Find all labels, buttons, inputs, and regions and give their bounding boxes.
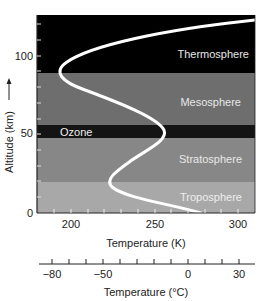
y-axis-label: Altitude (km) bbox=[3, 111, 15, 173]
x-tick-300: 300 bbox=[229, 218, 247, 230]
c-tick-0: 0 bbox=[185, 268, 191, 280]
atmosphere-temperature-chart: Thermosphere Mesosphere Ozone Stratosphe… bbox=[0, 0, 265, 301]
x-axis-label-celsius: Temperature (°C) bbox=[104, 286, 188, 298]
c-tick-minus50: −50 bbox=[94, 268, 113, 280]
thermosphere-label: Thermosphere bbox=[177, 48, 249, 60]
c-tick-minus80: −80 bbox=[43, 268, 62, 280]
x-axis-label-kelvin: Temperature (K) bbox=[106, 237, 185, 249]
ozone-label: Ozone bbox=[60, 126, 92, 138]
plot-area bbox=[37, 15, 255, 213]
y-tick-50: 50 bbox=[21, 127, 33, 139]
c-tick-30: 30 bbox=[233, 268, 245, 280]
stratosphere-label: Stratosphere bbox=[179, 153, 242, 165]
x-tick-200: 200 bbox=[62, 218, 80, 230]
arrow-up-icon bbox=[7, 78, 12, 100]
y-tick-100: 100 bbox=[15, 50, 33, 62]
troposphere-label: Troposphere bbox=[180, 191, 242, 203]
x-tick-250: 250 bbox=[146, 218, 164, 230]
y-tick-0: 0 bbox=[27, 207, 33, 219]
mesosphere-label: Mesosphere bbox=[180, 96, 241, 108]
celsius-ticks bbox=[52, 259, 239, 264]
